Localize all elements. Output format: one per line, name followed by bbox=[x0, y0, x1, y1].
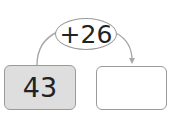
operation-bubble: +26 bbox=[55, 18, 117, 50]
operation-label: +26 bbox=[60, 20, 113, 49]
right-arc bbox=[116, 33, 132, 60]
answer-box[interactable] bbox=[96, 66, 167, 110]
arrowhead-icon bbox=[129, 58, 135, 64]
left-arc bbox=[37, 32, 57, 65]
start-number: 43 bbox=[23, 72, 57, 103]
start-number-box: 43 bbox=[4, 65, 76, 110]
